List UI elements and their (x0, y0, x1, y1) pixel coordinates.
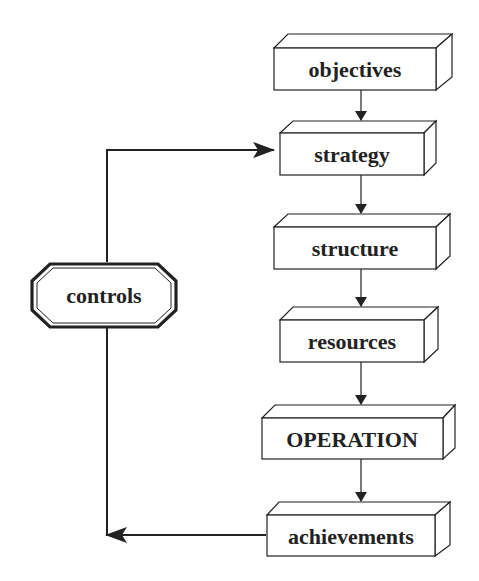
node-objectives: objectives (274, 34, 452, 90)
node-controls: controls (32, 264, 176, 327)
node-label: resources (308, 329, 397, 354)
node-operation: OPERATION (262, 405, 455, 459)
feedback-loop (106, 150, 274, 535)
node-resources: resources (280, 307, 438, 362)
node-achievements: achievements (267, 502, 450, 556)
node-label: achievements (288, 524, 414, 549)
node-label: controls (66, 283, 142, 308)
node-label: objectives (309, 57, 402, 82)
node-strategy: strategy (280, 121, 436, 175)
node-label: strategy (314, 142, 390, 167)
flowchart-canvas: objectives strategy structure resources … (0, 0, 479, 581)
node-structure: structure (274, 214, 450, 269)
node-label: structure (312, 236, 399, 261)
node-label: OPERATION (286, 427, 418, 452)
